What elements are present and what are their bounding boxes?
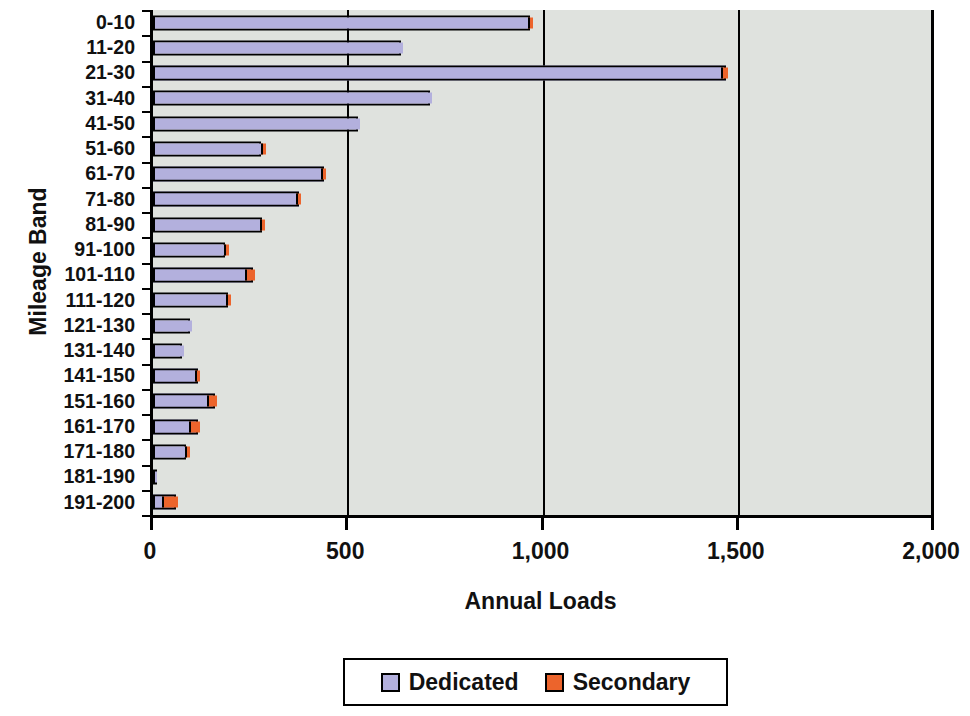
y-axis-tick-labels: 0-1011-2021-3031-4041-5051-6061-7071-808… [40,10,141,515]
bar-161-170[interactable] [153,419,198,434]
y-axis-tick-label: 61-70 [40,162,141,187]
x-axis-tick-label: 2,000 [902,538,960,565]
y-axis-tick-label: 191-200 [40,490,141,515]
bar-segment-dedicated [155,244,224,255]
chart-legend: DedicatedSecondary [343,658,728,706]
bar-slot [153,212,934,237]
bar-chart: Mileage Band 0-1011-2021-3031-4041-5051-… [0,0,970,716]
bar-segment-secondary [528,17,533,28]
bar-0-10[interactable] [153,15,530,30]
bar-slot [153,313,934,338]
legend-item-secondary[interactable]: Secondary [545,669,691,696]
bar-slot [153,162,934,187]
plot-area [150,10,934,518]
bar-slot [153,237,934,262]
bar-segment-secondary [207,396,218,407]
bar-segment-secondary [162,497,178,508]
bar-slot [153,338,934,363]
bar-171-180[interactable] [153,444,186,459]
bar-101-110[interactable] [153,268,253,283]
bar-slot [153,389,934,414]
y-axis-tick-label: 81-90 [40,212,141,237]
bar-51-60[interactable] [153,141,261,156]
bar-segment-secondary [321,169,326,180]
bar-slot [153,86,934,111]
bar-segment-dedicated [155,194,296,205]
bar-segment-secondary [260,219,265,230]
bar-slot [153,111,934,136]
x-axis-tick-label: 1,000 [512,538,570,565]
y-axis-tick-label: 11-20 [40,35,141,60]
bar-slot [153,490,934,515]
bar-slot [153,10,934,35]
legend-item-dedicated[interactable]: Dedicated [381,669,519,696]
y-axis-tick-label: 21-30 [40,61,141,86]
legend-label: Secondary [573,669,691,696]
x-axis-tick-mark [931,518,934,530]
bar-segment-secondary [226,295,231,306]
bar-slot [153,288,934,313]
bar-slot [153,263,934,288]
bar-151-160[interactable] [153,394,215,409]
x-axis-tick-labels: 05001,0001,5002,000 [0,538,970,570]
bar-21-30[interactable] [153,66,726,81]
bar-segment-secondary [721,68,728,79]
bar-segment-dedicated [155,371,195,382]
y-axis-tick-label: 171-180 [40,439,141,464]
bar-141-150[interactable] [153,369,198,384]
bar-slot [153,465,934,490]
bar-segment-dedicated [155,497,162,508]
legend-swatch-icon [381,673,400,692]
bar-191-200[interactable] [153,495,176,510]
y-axis-tick-label: 151-160 [40,389,141,414]
bar-segment-dedicated [155,17,528,28]
bar-segment-dedicated [155,446,185,457]
bar-181-190[interactable] [153,470,157,485]
bar-segment-dedicated [155,68,721,79]
x-axis-tick-label: 500 [326,538,364,565]
y-axis-tick-label: 141-150 [40,364,141,389]
y-axis-tick-label: 161-170 [40,414,141,439]
bar-segment-dedicated [155,345,184,356]
bar-121-130[interactable] [153,318,190,333]
x-axis-tick-mark [541,518,544,530]
bar-segment-dedicated [155,42,403,53]
bar-11-20[interactable] [153,40,401,55]
bar-41-50[interactable] [153,116,358,131]
bar-31-40[interactable] [153,91,430,106]
bar-slot [153,61,934,86]
y-axis-tick-label: 111-120 [40,288,141,313]
y-axis-tick-label: 0-10 [40,10,141,35]
bar-segment-dedicated [155,143,261,154]
bar-segment-dedicated [155,219,260,230]
bar-segment-dedicated [155,169,321,180]
bar-91-100[interactable] [153,242,225,257]
bar-131-140[interactable] [153,343,182,358]
bar-segment-dedicated [155,270,245,281]
y-axis-tick-label: 71-80 [40,187,141,212]
bar-segment-dedicated [155,472,157,483]
bar-slot [153,187,934,212]
bar-segment-secondary [189,421,199,432]
bar-81-90[interactable] [153,217,262,232]
bar-71-80[interactable] [153,192,299,207]
x-axis-tick-label: 1,500 [707,538,765,565]
y-axis-tick-label: 121-130 [40,313,141,338]
x-axis-tick-marks [150,518,934,530]
bar-segment-dedicated [155,320,192,331]
bar-segment-secondary [296,194,301,205]
bar-series-container [153,10,934,515]
y-axis-tick-label: 41-50 [40,111,141,136]
bar-111-120[interactable] [153,293,228,308]
bar-segment-secondary [245,270,255,281]
x-axis-tick-label: 0 [144,538,157,565]
y-axis-tick-label: 181-190 [40,465,141,490]
legend-label: Dedicated [409,669,519,696]
bar-61-70[interactable] [153,167,324,182]
y-axis-tick-label: 91-100 [40,237,141,262]
x-axis-title: Annual Loads [150,588,931,615]
bar-segment-dedicated [155,421,189,432]
y-axis-tick-label: 51-60 [40,136,141,161]
bar-segment-secondary [185,446,190,457]
plot-inner [153,10,934,515]
